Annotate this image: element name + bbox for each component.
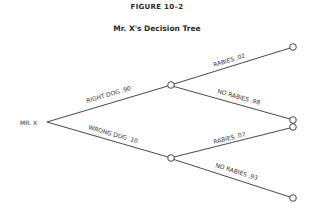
branch-wrong-dog xyxy=(47,122,168,157)
terminal-node-1 xyxy=(290,44,297,51)
outcome-wrong-no-rabies-label: NO RABIES .93 xyxy=(215,161,259,181)
terminal-node-3 xyxy=(290,124,297,131)
terminal-node-4 xyxy=(290,195,297,202)
branch-right-dog-label: RIGHT DOG .90 xyxy=(85,84,131,104)
outcome-right-no-rabies-label: NO RABIES .98 xyxy=(217,87,262,106)
outcome-right-rabies xyxy=(174,48,290,84)
terminal-node-2 xyxy=(290,117,297,124)
chance-node-wrong-dog xyxy=(168,155,175,162)
root-label: MR. X xyxy=(20,119,37,126)
chance-node-right-dog xyxy=(168,82,175,89)
decision-tree: MR. X RIGHT DOG .90 WRONG DOG .10 RABIES… xyxy=(0,0,314,211)
outcome-right-rabies-label: RABIES .02 xyxy=(212,52,246,68)
